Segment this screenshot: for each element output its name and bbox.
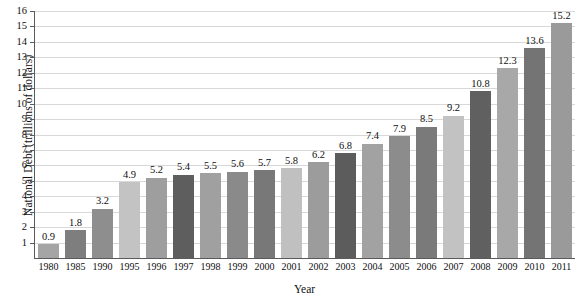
bar-group[interactable]: 5.2: [146, 11, 167, 258]
bar[interactable]: [173, 175, 194, 258]
y-axis-tick-mark: [30, 42, 34, 43]
y-axis-tick-mark: [30, 150, 34, 151]
y-axis-tick-mark: [30, 212, 34, 213]
bar-group[interactable]: 5.7: [254, 11, 275, 258]
bar-group[interactable]: 6.8: [335, 11, 356, 258]
bar[interactable]: [362, 144, 383, 258]
x-axis-tick-label: 1999: [228, 262, 248, 272]
y-axis-tick-mark: [30, 88, 34, 89]
bar[interactable]: [38, 244, 59, 258]
bar-group[interactable]: 0.9: [38, 11, 59, 258]
bar-group[interactable]: 8.5: [416, 11, 437, 258]
y-axis-tick-label: 11: [17, 83, 27, 94]
y-axis-tick-label: 2: [22, 222, 27, 233]
bar[interactable]: [389, 136, 410, 258]
y-axis-tick-label: 15: [17, 21, 28, 32]
y-axis-tick-mark: [30, 227, 34, 228]
bar[interactable]: [497, 68, 518, 258]
bar-group[interactable]: 5.8: [281, 11, 302, 258]
bar-group[interactable]: 1.8: [65, 11, 86, 258]
bar-value-label: 5.8: [285, 156, 298, 167]
y-axis-tick-label: 10: [17, 98, 28, 109]
bar[interactable]: [524, 48, 545, 258]
bar-group[interactable]: 9.2: [443, 11, 464, 258]
y-axis-tick-mark: [30, 165, 34, 166]
x-axis-tick-label: 2005: [390, 262, 410, 272]
x-axis-tick-label: 2011: [552, 262, 572, 272]
x-axis-title: Year: [34, 283, 575, 295]
bar-group[interactable]: 15.2: [551, 11, 572, 258]
bar-group[interactable]: 5.5: [200, 11, 221, 258]
bar[interactable]: [119, 182, 140, 258]
x-axis-tick-label: 2004: [363, 262, 383, 272]
y-axis-tick-label: 5: [22, 176, 27, 187]
y-axis-tick-label: 6: [22, 160, 27, 171]
x-axis-tick-label: 1990: [93, 262, 113, 272]
bar-value-label: 5.7: [258, 158, 271, 169]
bar[interactable]: [443, 116, 464, 258]
x-axis-tick-label: 2000: [255, 262, 275, 272]
bar[interactable]: [200, 173, 221, 258]
y-axis-tick-mark: [30, 11, 34, 12]
x-axis-tick-label: 1980: [39, 262, 59, 272]
bar[interactable]: [551, 23, 572, 258]
bar-value-label: 7.4: [366, 131, 379, 142]
bar-value-label: 7.9: [393, 124, 406, 135]
bar-value-label: 3.2: [96, 196, 109, 207]
y-axis-tick-mark: [30, 57, 34, 58]
bar-group[interactable]: 7.4: [362, 11, 383, 258]
bar-group[interactable]: 5.4: [173, 11, 194, 258]
bar-value-label: 1.8: [69, 218, 82, 229]
bar-group[interactable]: 10.8: [470, 11, 491, 258]
bar[interactable]: [65, 230, 86, 258]
y-axis-tick-mark: [30, 135, 34, 136]
bar-value-label: 10.8: [471, 79, 489, 90]
y-axis-tick-label: 7: [22, 145, 27, 156]
bars-layer: 0.91.83.24.95.25.45.55.65.75.86.26.87.47…: [35, 11, 575, 258]
x-axis-tick-labels: 1980198519901995199619971998199920002001…: [35, 262, 575, 278]
bar-group[interactable]: 6.2: [308, 11, 329, 258]
national-debt-bar-chart: National Debt (trillions of dollars) 161…: [0, 0, 578, 303]
y-axis-tick-mark: [30, 181, 34, 182]
bar[interactable]: [416, 127, 437, 258]
bar-value-label: 15.2: [552, 11, 570, 22]
bar[interactable]: [308, 162, 329, 258]
bar-group[interactable]: 4.9: [119, 11, 140, 258]
bar-group[interactable]: 13.6: [524, 11, 545, 258]
bar[interactable]: [146, 178, 167, 258]
bar-value-label: 5.2: [150, 165, 163, 176]
y-axis-tick-label: 3: [22, 206, 27, 217]
y-axis-tick-label: 8: [22, 129, 27, 140]
x-axis-line: [34, 258, 575, 259]
x-axis-tick-label: 2007: [444, 262, 464, 272]
bar-group[interactable]: 12.3: [497, 11, 518, 258]
y-axis-tick-label: 4: [22, 191, 27, 202]
y-axis-tick-mark: [30, 119, 34, 120]
bar[interactable]: [254, 170, 275, 258]
x-axis-tick-label: 2009: [498, 262, 518, 272]
bar[interactable]: [92, 209, 113, 258]
y-axis-tick-mark: [30, 243, 34, 244]
bar-group[interactable]: 3.2: [92, 11, 113, 258]
bar[interactable]: [227, 172, 248, 258]
bar-group[interactable]: 7.9: [389, 11, 410, 258]
bar-value-label: 6.2: [312, 150, 325, 161]
y-axis-tick-mark: [30, 196, 34, 197]
bar-group[interactable]: 5.6: [227, 11, 248, 258]
bar-value-label: 13.6: [525, 36, 543, 47]
y-axis-tick-mark: [30, 26, 34, 27]
bar-value-label: 5.6: [231, 159, 244, 170]
y-axis-tick-mark: [30, 73, 34, 74]
bar[interactable]: [281, 168, 302, 258]
bar[interactable]: [470, 91, 491, 258]
x-axis-tick-label: 1985: [66, 262, 86, 272]
bar-value-label: 12.3: [498, 56, 516, 67]
bar[interactable]: [335, 153, 356, 258]
x-axis-tick-label: 1997: [174, 262, 194, 272]
x-axis-tick-label: 2002: [309, 262, 329, 272]
bar-value-label: 8.5: [420, 114, 433, 125]
y-axis-tick-label: 13: [17, 52, 28, 63]
x-axis-tick-label: 2001: [282, 262, 302, 272]
x-axis-tick-label: 2006: [417, 262, 437, 272]
bar-value-label: 0.9: [42, 232, 55, 243]
